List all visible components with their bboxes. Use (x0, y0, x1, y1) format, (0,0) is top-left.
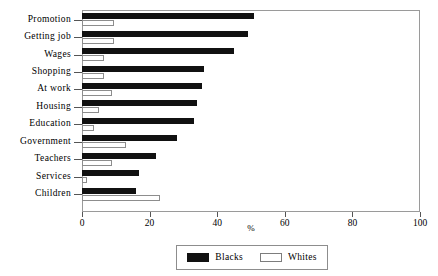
category-label: Teachers (35, 154, 71, 164)
legend-entry-blacks: Blacks (187, 253, 243, 263)
bar-whites (82, 55, 104, 61)
category-label: At work (37, 85, 71, 95)
bar-blacks (82, 188, 136, 194)
bar-whites (82, 177, 87, 183)
bar-group-government (82, 133, 420, 150)
category-label: Children (35, 189, 71, 199)
category-label-row: At work (0, 81, 82, 98)
x-axis-title: % (82, 224, 420, 233)
category-label-row: Education (0, 116, 82, 133)
category-label: Government (20, 137, 71, 147)
x-tick-mark (150, 212, 151, 217)
bar-blacks (82, 83, 202, 89)
category-label-row: Getting job (0, 28, 82, 45)
bar-whites (82, 125, 94, 131)
bar-blacks (82, 100, 197, 106)
category-label-row: Services (0, 168, 82, 185)
category-tick-mark (74, 124, 82, 125)
category-tick-mark (74, 194, 82, 195)
x-tick-mark (217, 212, 218, 217)
category-label: Housing (36, 102, 71, 112)
category-label-row: Housing (0, 98, 82, 115)
category-label: Education (29, 119, 71, 129)
bar-blacks (82, 170, 139, 176)
bar-whites (82, 73, 104, 79)
bar-group-children (82, 185, 420, 202)
outlined-white-swatch (260, 253, 282, 262)
bar-group-teachers (82, 151, 420, 168)
bar-whites (82, 38, 114, 44)
bar-group-at-work (82, 81, 420, 98)
x-tick-mark (285, 212, 286, 217)
bar-blacks (82, 66, 204, 72)
category-tick-mark (74, 142, 82, 143)
bar-group-promotion (82, 11, 420, 28)
category-label: Promotion (28, 15, 71, 25)
category-tick-mark (74, 89, 82, 90)
category-tick-mark (74, 159, 82, 160)
legend-label: Whites (288, 253, 317, 263)
chart-legend: BlacksWhites (176, 245, 328, 270)
category-label: Getting job (24, 32, 71, 41)
category-label-row: Wages (0, 46, 82, 63)
category-label-row: Shopping (0, 63, 82, 80)
bar-group-getting-job (82, 28, 420, 45)
bar-group-wages (82, 46, 420, 63)
bar-blacks (82, 31, 248, 37)
category-tick-mark (74, 72, 82, 73)
bar-whites (82, 90, 112, 96)
category-tick-mark (74, 20, 82, 21)
bar-rows-container (82, 11, 420, 211)
bar-whites (82, 107, 99, 113)
bar-whites (82, 195, 160, 201)
bar-blacks (82, 118, 194, 124)
x-tick-mark (352, 212, 353, 217)
bar-group-education (82, 116, 420, 133)
bar-whites (82, 20, 114, 26)
x-tick-mark (420, 212, 421, 217)
category-axis-labels: PromotionGetting jobWagesShoppingAt work… (0, 11, 82, 211)
bar-group-services (82, 168, 420, 185)
category-label: Services (36, 172, 71, 182)
bar-blacks (82, 135, 177, 141)
bar-group-housing (82, 98, 420, 115)
category-tick-mark (74, 107, 82, 108)
category-label: Wages (44, 50, 71, 59)
bar-blacks (82, 153, 156, 159)
legend-entry-whites: Whites (260, 253, 317, 263)
legend-label: Blacks (215, 253, 243, 263)
category-label-row: Teachers (0, 151, 82, 168)
horizontal-bar-chart: PromotionGetting jobWagesShoppingAt work… (0, 0, 438, 276)
category-label-row: Government (0, 133, 82, 150)
bar-whites (82, 142, 126, 148)
category-label-row: Promotion (0, 11, 82, 28)
category-tick-mark (74, 37, 82, 38)
bar-group-shopping (82, 63, 420, 80)
bar-whites (82, 160, 112, 166)
category-tick-mark (74, 177, 82, 178)
bar-blacks (82, 13, 254, 19)
bar-blacks (82, 48, 234, 54)
filled-black-swatch (187, 253, 209, 262)
category-tick-mark (74, 55, 82, 56)
category-label-row: Children (0, 185, 82, 202)
x-tick-mark (82, 212, 83, 217)
category-label: Shopping (32, 67, 71, 77)
